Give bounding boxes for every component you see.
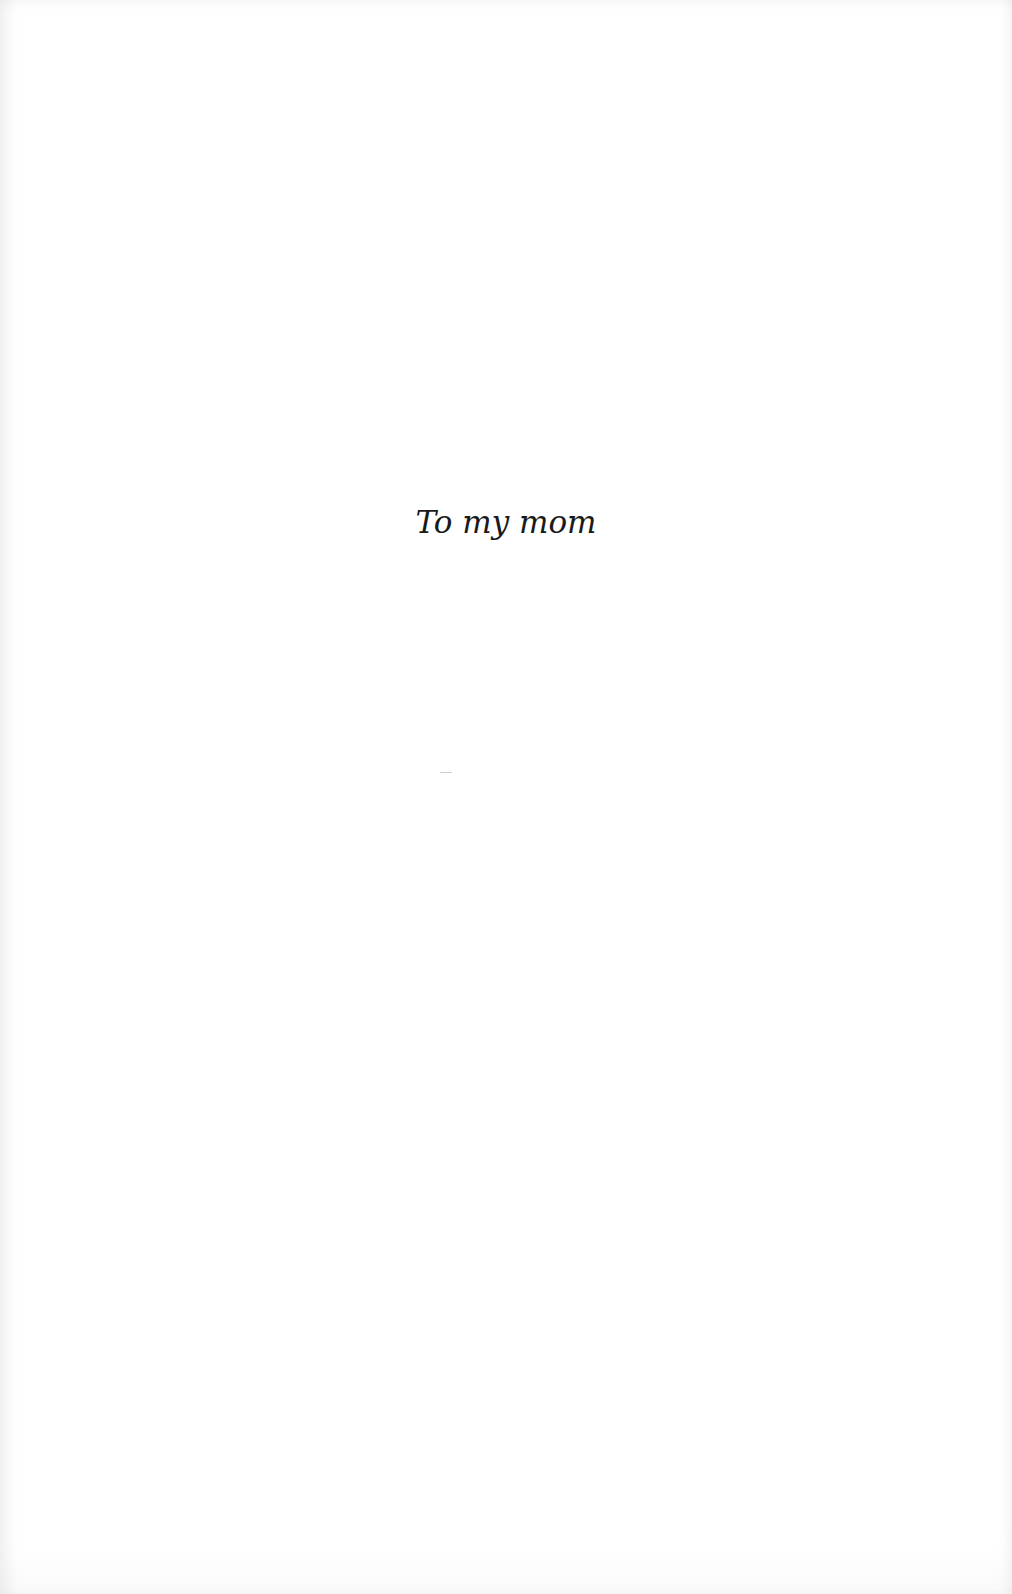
scan-artifact-mark bbox=[440, 772, 452, 773]
book-page: To my mom bbox=[0, 0, 1012, 1594]
page-scan-vignette bbox=[0, 0, 1012, 1594]
dedication-text: To my mom bbox=[0, 502, 1012, 542]
